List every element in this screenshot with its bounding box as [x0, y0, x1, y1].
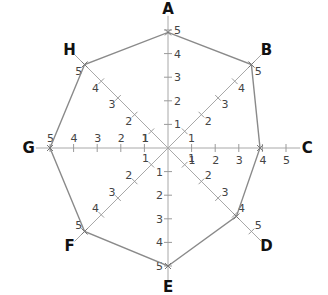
- tick-label: 3: [156, 213, 163, 226]
- tick-label: 3: [236, 154, 243, 167]
- tick-label: 3: [94, 132, 101, 145]
- axis-line-b: [168, 55, 261, 148]
- tick-label: 5: [255, 219, 262, 232]
- tick-label: 2: [205, 169, 212, 182]
- tick-label: 2: [174, 95, 181, 108]
- tick-label: 1: [188, 132, 195, 145]
- tick-label: 1: [156, 166, 163, 179]
- tick-label: 2: [205, 115, 212, 128]
- axis-label-f: F: [64, 237, 74, 255]
- tick-label: 4: [156, 236, 163, 249]
- tick-label: 2: [125, 115, 132, 128]
- tick-label: 4: [174, 48, 181, 61]
- vertex-marker-h: [82, 62, 88, 68]
- axis-label-h: H: [63, 41, 76, 59]
- tick-label: 1: [142, 132, 149, 145]
- tick-label: 4: [92, 82, 99, 95]
- axis-label-c: C: [302, 139, 313, 157]
- tick-label: 2: [118, 132, 125, 145]
- tick-label: 2: [212, 154, 219, 167]
- tick-label: 4: [92, 202, 99, 215]
- tick-label: 3: [109, 186, 116, 199]
- tick-label: 3: [221, 186, 228, 199]
- tick-label: 2: [156, 189, 163, 202]
- tick-label: 5: [47, 132, 54, 145]
- tick-label: 1: [188, 152, 195, 165]
- radar-diagram: 1234512345123451234512345123451234512345…: [0, 0, 328, 295]
- tick-label: 3: [174, 71, 181, 84]
- tick-label: 5: [255, 65, 262, 78]
- axis-label-d: D: [260, 237, 272, 255]
- tick-label: 2: [125, 169, 132, 182]
- axis-line-f: [75, 148, 168, 241]
- axis-label-b: B: [261, 41, 272, 59]
- axis-label-e: E: [163, 278, 173, 295]
- tick-label: 4: [71, 132, 78, 145]
- tick-label: 3: [221, 98, 228, 111]
- tick-label: 5: [283, 154, 290, 167]
- tick-label: 3: [109, 98, 116, 111]
- tick-label: 1: [142, 152, 149, 165]
- tick-label: 4: [238, 82, 245, 95]
- tick-label: 4: [259, 154, 266, 167]
- axis-label-a: A: [162, 0, 174, 18]
- tick-label: 5: [75, 219, 82, 232]
- tick-label: 1: [174, 118, 181, 131]
- axis-label-g: G: [23, 139, 35, 157]
- vertex-marker-f: [82, 228, 88, 234]
